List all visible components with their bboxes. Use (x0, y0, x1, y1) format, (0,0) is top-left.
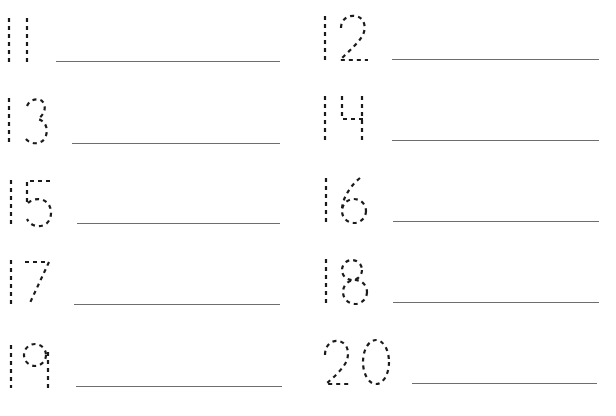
tracing-worksheet: 11 12 13 14 15 16 17 18 19 20 (0, 0, 616, 416)
writing-line-20[interactable] (412, 383, 597, 384)
numeral-14 (325, 96, 365, 142)
writing-line-14[interactable] (392, 140, 599, 141)
writing-line-13[interactable] (72, 143, 280, 144)
numeral-label-16: 16 (0, 0, 1, 1)
writing-line-17[interactable] (74, 304, 280, 305)
writing-line-12[interactable] (392, 59, 599, 60)
numeral-label-15: 15 (0, 0, 1, 1)
numeral-19 (11, 344, 48, 388)
numeral-label-11: 11 (0, 0, 1, 1)
numeral-12 (325, 16, 368, 60)
numeral-label-20: 20 (0, 0, 1, 1)
traced-numerals (0, 0, 616, 416)
numeral-13 (9, 98, 47, 144)
numeral-20 (325, 340, 389, 384)
numeral-16 (326, 178, 366, 223)
writing-line-18[interactable] (393, 302, 599, 303)
numeral-label-18: 18 (0, 0, 1, 1)
numeral-label-14: 14 (0, 0, 1, 1)
numeral-17 (11, 260, 49, 305)
numeral-15 (11, 180, 51, 226)
numeral-18 (326, 259, 367, 304)
writing-line-16[interactable] (393, 221, 599, 222)
numeral-11 (9, 18, 27, 62)
numeral-label-12: 12 (0, 0, 1, 1)
numeral-label-13: 13 (0, 0, 1, 1)
numeral-label-19: 19 (0, 0, 1, 1)
writing-line-19[interactable] (76, 386, 282, 387)
writing-line-15[interactable] (77, 223, 280, 224)
writing-line-11[interactable] (56, 61, 280, 62)
numeral-label-17: 17 (0, 0, 1, 1)
